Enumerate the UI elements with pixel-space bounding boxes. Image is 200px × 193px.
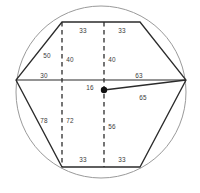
dimension-label-mid-left: 30: [40, 73, 47, 79]
dimension-label-bottom-right: 33: [118, 157, 125, 163]
dimension-label-lower-left-chord: 72: [66, 118, 73, 124]
dimension-label-center-offset: 16: [86, 85, 93, 91]
dimension-label-lower-left-edge: 78: [40, 118, 47, 124]
dimension-label-top-right: 33: [118, 28, 125, 34]
dimension-label-upper-left-edge: 50: [43, 53, 50, 59]
geometry-canvas: [0, 0, 200, 193]
dimension-label-upper-left-chord: 40: [66, 57, 73, 63]
geometry-figure: 33 33 50 40 40 30 63 16 65 78 72 56 33 3…: [0, 0, 200, 193]
dimension-label-bottom-left: 33: [79, 157, 86, 163]
center-point-dot: [101, 87, 107, 93]
dimension-label-lower-center-chord: 56: [108, 124, 115, 130]
dimension-label-radius: 65: [139, 95, 146, 101]
center-to-right-vertex-line: [104, 80, 186, 90]
dimension-label-mid-right: 63: [135, 73, 142, 79]
inscribed-hexagon: [16, 22, 186, 167]
dimension-label-upper-center-chord: 40: [108, 57, 115, 63]
dimension-label-top-left: 33: [79, 28, 86, 34]
circumscribed-circle: [16, 6, 186, 178]
